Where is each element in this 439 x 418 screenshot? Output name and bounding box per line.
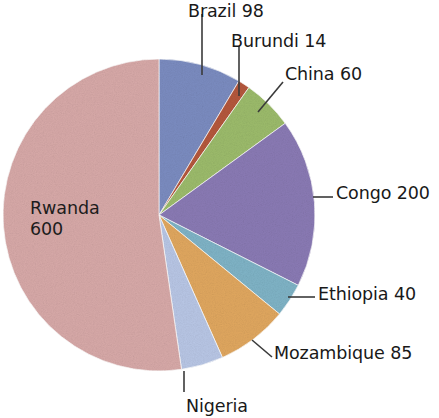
slice-label-burundi: Burundi 14: [231, 31, 326, 52]
slice-label-mozambique: Mozambique 85: [274, 343, 412, 364]
slice-label-rwanda-value: 600: [30, 219, 100, 240]
slice-label-china: China 60: [285, 64, 362, 85]
slice-label-rwanda: Rwanda 600: [30, 198, 100, 239]
pie-chart: Brazil 98 Burundi 14 China 60 Congo 200 …: [0, 0, 439, 418]
slice-label-rwanda-name: Rwanda: [30, 198, 100, 219]
slice-label-congo: Congo 200: [336, 183, 430, 204]
slice-label-brazil: Brazil 98: [188, 1, 264, 22]
slice-label-nigeria: Nigeria: [186, 396, 248, 417]
leader-line-mozambique: [252, 340, 272, 357]
slice-label-ethiopia: Ethiopia 40: [318, 284, 416, 305]
